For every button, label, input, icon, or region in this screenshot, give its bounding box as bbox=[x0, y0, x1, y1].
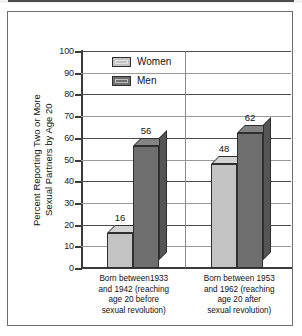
category-label-line: age 20 before bbox=[83, 295, 185, 306]
category-label-line: sexual revolution) bbox=[189, 306, 291, 317]
bar-front-face bbox=[211, 164, 237, 268]
category-label-1: Born between1933and 1942 (reachingage 20… bbox=[81, 274, 187, 330]
bar-men-group1 bbox=[133, 146, 159, 268]
category-label-line: and 1962 (reaching bbox=[189, 285, 291, 296]
data-label-men-group2: 62 bbox=[231, 112, 269, 123]
y-tick-label: 80 bbox=[48, 89, 74, 99]
legend: Women Men bbox=[112, 56, 171, 86]
y-tick-label: 0 bbox=[48, 263, 74, 273]
y-axis-title-line1: Percent Reporting Two or More bbox=[30, 56, 42, 264]
category-label-line: sexual revolution) bbox=[83, 306, 185, 317]
y-axis-tick bbox=[75, 268, 82, 270]
data-label-women-group1: 16 bbox=[101, 212, 139, 223]
scan-edge-artifact bbox=[0, 0, 302, 3]
bar-side-face bbox=[159, 130, 167, 260]
legend-swatch-men-icon bbox=[112, 76, 131, 86]
gridline bbox=[81, 94, 291, 95]
category-label-2: Born between 1953and 1962 (reachingage 2… bbox=[187, 274, 293, 330]
bar-women-group2 bbox=[211, 164, 237, 268]
category-label-line: Born between1933 bbox=[83, 274, 185, 285]
bar-front-face bbox=[107, 233, 133, 268]
y-tick-label: 70 bbox=[48, 111, 74, 121]
figure-border: Percent Reporting Two or More Sexual Par… bbox=[7, 11, 293, 326]
y-tick-label: 40 bbox=[48, 176, 74, 186]
category-label-line: and 1942 (reaching bbox=[83, 285, 185, 296]
legend-label-women: Women bbox=[137, 56, 171, 67]
x-axis-category-labels: Born between1933and 1942 (reachingage 20… bbox=[81, 274, 292, 330]
y-tick-label: 100 bbox=[48, 46, 74, 56]
bar-women-group1 bbox=[107, 233, 133, 268]
legend-label-men: Men bbox=[137, 75, 156, 86]
y-tick-label: 30 bbox=[48, 198, 74, 208]
data-label-women-group2: 48 bbox=[205, 143, 243, 154]
data-label-men-group1: 56 bbox=[127, 125, 165, 136]
bar-side-face bbox=[263, 117, 271, 260]
y-tick-label: 20 bbox=[48, 220, 74, 230]
y-tick-label: 50 bbox=[48, 155, 74, 165]
category-divider bbox=[185, 51, 186, 268]
gridline bbox=[81, 51, 291, 52]
category-label-line: Born between 1953 bbox=[189, 274, 291, 285]
legend-item-women: Women bbox=[112, 56, 171, 67]
y-tick-label: 60 bbox=[48, 133, 74, 143]
y-tick-label: 10 bbox=[48, 241, 74, 251]
legend-item-men: Men bbox=[112, 75, 171, 86]
chart-figure: Percent Reporting Two or More Sexual Par… bbox=[0, 0, 302, 336]
legend-swatch-women-icon bbox=[112, 57, 131, 67]
y-tick-label: 90 bbox=[48, 68, 74, 78]
category-label-line: age 20 after bbox=[189, 295, 291, 306]
bar-front-face bbox=[133, 146, 159, 268]
